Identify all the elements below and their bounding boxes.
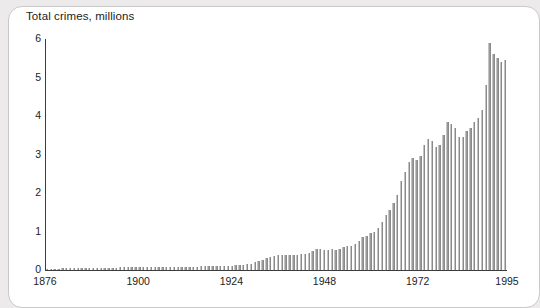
bar bbox=[369, 233, 371, 270]
bar bbox=[223, 266, 225, 270]
bar bbox=[365, 236, 367, 270]
bar bbox=[342, 247, 344, 270]
bar bbox=[146, 267, 148, 270]
bar bbox=[454, 128, 456, 270]
bar bbox=[392, 203, 394, 270]
x-tick-label: 1900 bbox=[126, 275, 149, 287]
bar bbox=[61, 268, 63, 270]
bar bbox=[496, 58, 498, 270]
bar bbox=[323, 250, 325, 270]
bar bbox=[308, 253, 310, 270]
bar bbox=[65, 268, 67, 270]
bar bbox=[354, 244, 356, 270]
bar bbox=[84, 268, 86, 270]
bar bbox=[361, 237, 363, 270]
bar bbox=[77, 268, 79, 270]
bar bbox=[123, 267, 125, 270]
bar bbox=[315, 249, 317, 270]
bar bbox=[242, 265, 244, 270]
x-tick-label: 1876 bbox=[33, 275, 56, 287]
bar bbox=[100, 268, 102, 270]
bar bbox=[431, 141, 433, 270]
bar bbox=[88, 268, 90, 270]
bar bbox=[111, 268, 113, 270]
bar bbox=[415, 160, 417, 270]
bar bbox=[411, 158, 413, 270]
y-tick-label: 6 bbox=[0, 32, 41, 44]
bar bbox=[57, 269, 59, 270]
bar bbox=[269, 257, 271, 270]
bar bbox=[373, 232, 375, 271]
bar bbox=[458, 137, 460, 270]
bar bbox=[435, 147, 437, 270]
bar bbox=[465, 131, 467, 270]
bar bbox=[319, 249, 321, 270]
bar bbox=[311, 251, 313, 270]
bar bbox=[92, 268, 94, 270]
bar bbox=[207, 266, 209, 270]
bar bbox=[169, 267, 171, 270]
bar bbox=[284, 255, 286, 270]
bar bbox=[127, 267, 129, 270]
bar bbox=[161, 267, 163, 270]
bar bbox=[381, 222, 383, 270]
bar bbox=[473, 122, 475, 270]
bar bbox=[250, 264, 252, 270]
bar bbox=[423, 145, 425, 270]
bar bbox=[107, 268, 109, 270]
bar bbox=[215, 266, 217, 270]
bar bbox=[385, 215, 387, 270]
bar bbox=[154, 267, 156, 270]
bar bbox=[231, 266, 233, 270]
bar bbox=[277, 255, 279, 270]
bar bbox=[96, 268, 98, 270]
bar bbox=[157, 267, 159, 270]
bar-series bbox=[45, 39, 507, 270]
bar bbox=[180, 267, 182, 270]
x-tick-label: 1924 bbox=[220, 275, 243, 287]
bar bbox=[442, 135, 444, 270]
bar bbox=[350, 246, 352, 270]
bar bbox=[246, 264, 248, 270]
bar bbox=[46, 269, 48, 270]
bar bbox=[184, 267, 186, 270]
bar bbox=[477, 118, 479, 270]
bar bbox=[234, 265, 236, 270]
bar bbox=[296, 255, 298, 270]
bar bbox=[227, 266, 229, 270]
x-tick-label: 1972 bbox=[406, 275, 429, 287]
y-tick-label: 0 bbox=[0, 263, 41, 275]
bar bbox=[300, 254, 302, 270]
bar bbox=[53, 269, 55, 270]
bar bbox=[281, 255, 283, 270]
bar bbox=[346, 246, 348, 270]
bar bbox=[211, 266, 213, 270]
bar bbox=[327, 250, 329, 270]
bar bbox=[219, 266, 221, 270]
bar bbox=[177, 267, 179, 270]
bar bbox=[485, 85, 487, 270]
bar bbox=[134, 267, 136, 270]
bar bbox=[438, 145, 440, 270]
bar bbox=[257, 261, 259, 270]
bar bbox=[331, 249, 333, 270]
bar bbox=[119, 267, 121, 270]
bar bbox=[50, 269, 52, 270]
bar bbox=[138, 267, 140, 270]
bar bbox=[80, 268, 82, 270]
bar bbox=[254, 262, 256, 270]
bar bbox=[334, 250, 336, 270]
bar bbox=[261, 260, 263, 270]
bar bbox=[481, 110, 483, 270]
bar bbox=[204, 266, 206, 270]
bar bbox=[265, 258, 267, 270]
bar bbox=[304, 254, 306, 270]
bar bbox=[504, 60, 506, 270]
y-tick-label: 2 bbox=[0, 186, 41, 198]
bar bbox=[400, 181, 402, 270]
bar bbox=[103, 268, 105, 270]
x-tick-label: 1948 bbox=[313, 275, 336, 287]
bar bbox=[408, 162, 410, 270]
